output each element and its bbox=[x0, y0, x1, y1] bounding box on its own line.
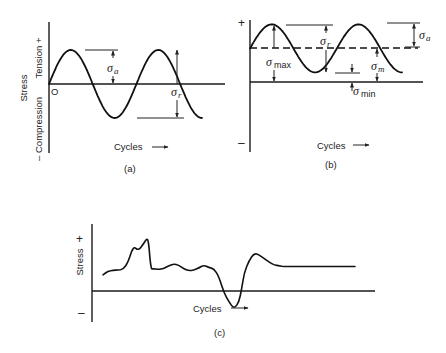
panel-b-sigma-a-symbol: σ bbox=[419, 28, 426, 42]
panel-b-sigma-r-subscript: r bbox=[327, 39, 331, 49]
panel-b-sigma-min-subscript: min bbox=[361, 89, 376, 99]
panel-c-stress-label: Stress bbox=[74, 248, 85, 275]
panel-a: σ a σ r O Tension + Stress – Compression… bbox=[18, 22, 225, 174]
panel-c-minus-label: – bbox=[78, 306, 85, 320]
panel-a-sigma-a-symbol: σ bbox=[107, 61, 114, 75]
panel-a-sigma-a-subscript: a bbox=[114, 66, 119, 76]
panel-b: + – σ max σ r σ min σ m σ a Cycles (b) bbox=[238, 16, 431, 170]
panel-b-sigma-max-subscript: max bbox=[274, 60, 292, 70]
panel-a-stress-label: Stress bbox=[18, 74, 29, 101]
panel-a-origin-label: O bbox=[51, 86, 58, 97]
panel-a-sigma-r-subscript: r bbox=[178, 90, 182, 100]
panel-c-plus-label: + bbox=[76, 232, 83, 246]
panel-a-caption: (a) bbox=[124, 163, 136, 174]
panel-c-random-stress-curve bbox=[103, 239, 355, 307]
panel-b-sigma-m-subscript: m bbox=[378, 64, 385, 74]
stress-cycle-figure: σ a σ r O Tension + Stress – Compression… bbox=[0, 0, 446, 353]
panel-b-sigma-max-symbol: σ bbox=[266, 55, 273, 69]
panel-a-tension-label: Tension + bbox=[33, 37, 44, 78]
panel-a-compression-label: – Compression bbox=[33, 97, 44, 161]
panel-b-sigma-r-symbol: σ bbox=[320, 34, 327, 48]
panel-c: + Stress – Cycles (c) bbox=[74, 224, 375, 338]
panel-a-sigma-r-symbol: σ bbox=[171, 85, 178, 99]
panel-b-sigma-a-subscript: a bbox=[426, 33, 431, 43]
panel-c-caption: (c) bbox=[214, 327, 225, 338]
panel-b-sigma-min-symbol: σ bbox=[353, 84, 360, 98]
panel-c-x-axis-label: Cycles bbox=[193, 303, 222, 314]
panel-b-minus-label: – bbox=[238, 136, 245, 150]
panel-b-plus-label: + bbox=[238, 16, 245, 30]
panel-b-caption: (b) bbox=[325, 159, 337, 170]
panel-a-x-axis-label: Cycles bbox=[114, 141, 143, 152]
panel-b-x-axis-label: Cycles bbox=[317, 140, 346, 151]
panel-b-sigma-m-symbol: σ bbox=[371, 59, 378, 73]
